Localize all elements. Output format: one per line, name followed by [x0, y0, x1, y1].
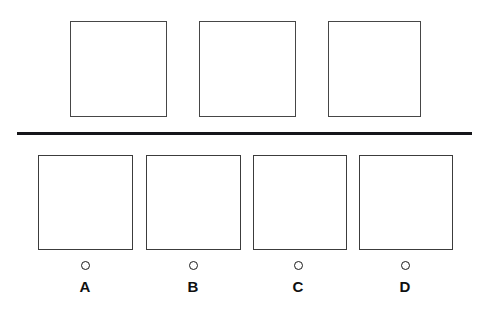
option-bubble-a[interactable] — [81, 261, 90, 270]
option-bubble-d[interactable] — [401, 261, 410, 270]
option-frame-c[interactable] — [253, 155, 347, 250]
option-bubble-b[interactable] — [189, 261, 198, 270]
option-label-a: A — [70, 279, 100, 295]
option-label-c: C — [283, 279, 313, 295]
option-label-d: D — [390, 279, 420, 295]
test-item-page: { "page": { "title": "", "background_col… — [0, 0, 489, 315]
option-label-b: B — [178, 279, 208, 295]
option-frame-b[interactable] — [146, 155, 241, 250]
option-frame-a[interactable] — [38, 155, 133, 250]
option-bubble-c[interactable] — [294, 261, 303, 270]
answer-options-row: A B C D — [0, 0, 489, 315]
option-frame-d[interactable] — [359, 155, 453, 250]
